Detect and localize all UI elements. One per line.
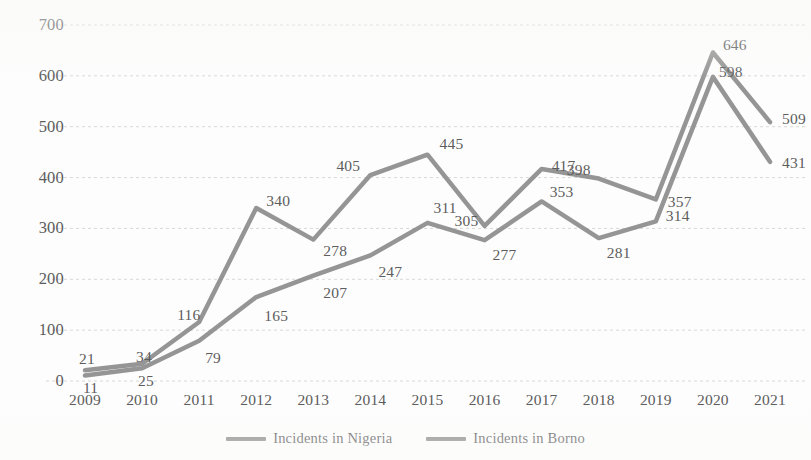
data-label: 353 [550, 183, 574, 201]
data-label: 311 [434, 199, 457, 217]
data-label: 340 [266, 192, 290, 210]
data-label: 278 [323, 242, 347, 260]
data-label: 277 [493, 246, 517, 264]
data-label: 598 [719, 63, 743, 81]
data-label: 21 [79, 350, 95, 368]
legend-item-borno[interactable]: Incidents in Borno [426, 430, 585, 447]
data-label: 281 [607, 244, 631, 262]
data-label: 34 [136, 348, 152, 366]
legend-swatch-nigeria [226, 437, 266, 441]
data-label: 431 [782, 154, 806, 172]
data-label: 509 [782, 110, 806, 128]
data-label: 405 [336, 157, 360, 175]
x-axis-tick-label: 2021 [737, 391, 803, 409]
x-axis-tick-label: 2017 [509, 391, 575, 409]
legend-item-nigeria[interactable]: Incidents in Nigeria [226, 430, 392, 447]
x-axis-tick-label: 2011 [166, 391, 232, 409]
y-axis-tick-label: 200 [0, 269, 64, 289]
x-axis-tick-label: 2014 [337, 391, 403, 409]
data-label: 25 [138, 372, 154, 390]
data-label: 207 [323, 284, 347, 302]
legend-label-borno: Incidents in Borno [473, 430, 585, 447]
y-axis-tick-label: 700 [0, 15, 64, 35]
data-label: 11 [83, 379, 98, 397]
data-label: 165 [264, 307, 288, 325]
y-axis-tick-label: 0 [0, 371, 64, 391]
legend-swatch-borno [426, 437, 466, 441]
data-label: 116 [177, 306, 200, 324]
y-axis-tick-label: 600 [0, 66, 64, 86]
legend-label-nigeria: Incidents in Nigeria [273, 430, 392, 447]
data-label: 646 [723, 36, 747, 54]
chart-legend: Incidents in Nigeria Incidents in Borno [0, 430, 811, 447]
data-label: 398 [567, 161, 591, 179]
x-axis-tick-label: 2020 [680, 391, 746, 409]
y-axis-tick-label: 300 [0, 218, 64, 238]
y-axis-tick-label: 100 [0, 320, 64, 340]
data-label: 305 [455, 212, 479, 230]
y-axis-tick-label: 500 [0, 117, 64, 137]
data-label: 79 [205, 349, 221, 367]
incidents-line-chart: 0100200300400500600700 20092010201120122… [0, 0, 811, 460]
data-label: 357 [668, 193, 692, 211]
data-label: 445 [440, 135, 464, 153]
data-label: 247 [378, 263, 402, 281]
y-axis-tick-label: 400 [0, 168, 64, 188]
